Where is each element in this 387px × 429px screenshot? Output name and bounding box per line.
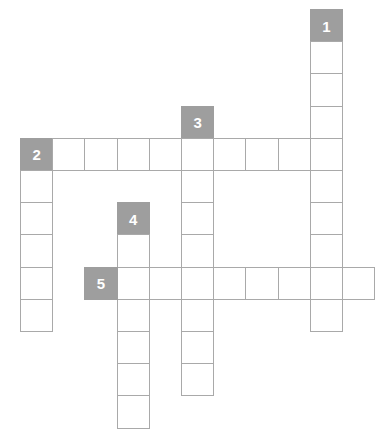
letter-cell[interactable]: [310, 299, 343, 332]
letter-cell[interactable]: [20, 299, 53, 332]
letter-cell[interactable]: [181, 202, 214, 235]
letter-cell[interactable]: [310, 170, 343, 203]
letter-cell[interactable]: [181, 299, 214, 332]
letter-cell[interactable]: [342, 267, 375, 300]
letter-cell[interactable]: [117, 267, 150, 300]
letter-cell[interactable]: [149, 267, 182, 300]
letter-cell[interactable]: [310, 234, 343, 267]
letter-cell[interactable]: [20, 170, 53, 203]
letter-cell[interactable]: [117, 234, 150, 267]
letter-cell[interactable]: [117, 299, 150, 332]
letter-cell[interactable]: [310, 138, 343, 171]
letter-cell[interactable]: [310, 41, 343, 74]
clue-number-label: 1: [311, 18, 342, 33]
letter-cell[interactable]: [117, 331, 150, 364]
letter-cell[interactable]: [52, 138, 85, 171]
clue-cell-4: 4: [117, 202, 150, 235]
letter-cell[interactable]: [181, 363, 214, 396]
letter-cell[interactable]: [20, 267, 53, 300]
letter-cell[interactable]: [181, 138, 214, 171]
letter-cell[interactable]: [310, 267, 343, 300]
letter-cell[interactable]: [310, 202, 343, 235]
letter-cell[interactable]: [245, 267, 278, 300]
letter-cell[interactable]: [84, 138, 117, 171]
letter-cell[interactable]: [181, 170, 214, 203]
letter-cell[interactable]: [117, 138, 150, 171]
clue-number-label: 4: [118, 211, 149, 226]
letter-cell[interactable]: [181, 234, 214, 267]
letter-cell[interactable]: [117, 395, 150, 428]
letter-cell[interactable]: [278, 138, 311, 171]
clue-number-label: 5: [85, 276, 116, 291]
letter-cell[interactable]: [20, 234, 53, 267]
letter-cell[interactable]: [181, 267, 214, 300]
letter-cell[interactable]: [149, 138, 182, 171]
letter-cell[interactable]: [117, 363, 150, 396]
clue-cell-5: 5: [84, 267, 117, 300]
letter-cell[interactable]: [310, 106, 343, 139]
letter-cell[interactable]: [181, 331, 214, 364]
letter-cell[interactable]: [245, 138, 278, 171]
clue-number-label: 2: [21, 147, 52, 162]
clue-cell-1: 1: [310, 9, 343, 42]
letter-cell[interactable]: [213, 138, 246, 171]
clue-cell-2: 2: [20, 138, 53, 171]
letter-cell[interactable]: [278, 267, 311, 300]
letter-cell[interactable]: [213, 267, 246, 300]
clue-number-label: 3: [182, 115, 213, 130]
letter-cell[interactable]: [310, 73, 343, 106]
clue-cell-3: 3: [181, 106, 214, 139]
letter-cell[interactable]: [20, 202, 53, 235]
